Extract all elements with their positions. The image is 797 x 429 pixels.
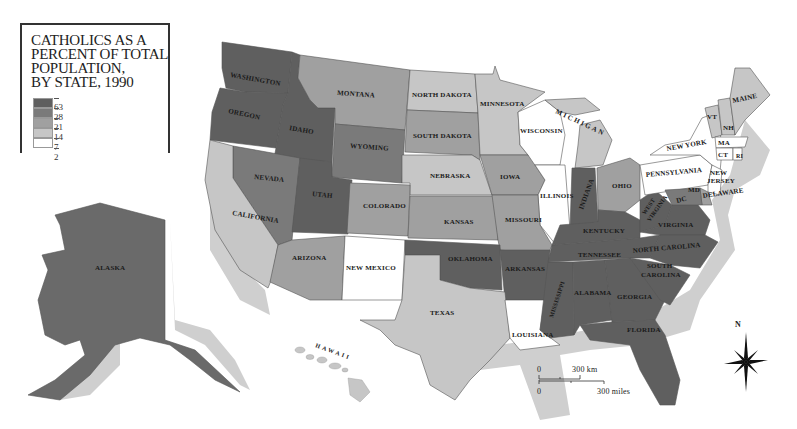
legend-swatch [33,138,53,148]
label-north-dakota: NORTH DAKOTA [412,91,472,99]
state-washington[interactable] [222,42,292,93]
label-minnesota: MINNESOTA [480,100,524,108]
legend-title-line: POPULATION, [31,61,168,75]
legend: CATHOLICS AS A PERCENT OF TOTAL POPULATI… [20,23,170,153]
scale-km-label: 300 km [572,365,598,374]
scale-km-zero: 0 [537,365,541,374]
legend-title-line: PERCENT OF TOTAL [31,47,168,61]
label-wisconsin: WISCONSIN [520,127,563,135]
legend-swatch [33,118,53,128]
label-texas: TEXAS [430,309,454,317]
label-colorado: COLORADO [363,202,406,210]
label-kansas: KANSAS [444,218,474,226]
state-hawaii[interactable] [295,347,370,402]
state-wyoming[interactable] [332,124,405,183]
label-iowa: IOWA [500,173,520,181]
label-kentucky: KENTUCKY [583,227,625,235]
label-new-jersey-2: JERSEY [707,177,735,185]
label-virginia: VIRGINIA [658,221,693,229]
legend-title-line: CATHOLICS AS A [31,33,168,47]
label-ohio: OHIO [612,182,632,190]
legend-swatch [33,98,53,108]
label-illinois: ILLINOIS [540,192,574,200]
scale-mi-label: 300 miles [597,387,630,396]
label-nebraska: NEBRASKA [430,172,471,180]
label-alabama: ALABAMA [574,289,612,297]
legend-scale: 63 28 21 14 7 2 [33,98,53,148]
label-south-carolina-1: SOUTH [647,262,673,270]
state-arizona[interactable] [270,236,345,300]
label-florida: FLORIDA [627,326,661,334]
label-georgia: GEORGIA [617,293,652,301]
scale-mi-zero: 0 [537,387,541,396]
label-vermont: VT [707,113,717,121]
label-south-carolina-2: CAROLINA [641,271,681,279]
label-rhode-island: RI [736,153,744,159]
legend-swatch [33,128,53,138]
legend-title-line: BY STATE, 1990 [31,75,168,89]
legend-swatch [33,108,53,118]
legend-title: CATHOLICS AS A PERCENT OF TOTAL POPULATI… [31,33,168,89]
label-arkansas: ARKANSAS [505,265,545,273]
label-alaska: ALASKA [95,264,125,272]
compass-rose-icon [724,332,768,392]
label-new-hampshire: NH [723,124,734,132]
compass-north-label: N [735,320,741,329]
state-alaska[interactable] [28,203,240,400]
label-new-jersey-1: NEW [710,169,727,177]
label-maryland: MD [688,186,700,194]
label-new-mexico: NEW MEXICO [346,264,396,272]
label-arizona: ARIZONA [292,254,326,262]
label-missouri: MISSOURI [505,216,542,224]
label-south-dakota: SOUTH DAKOTA [413,132,472,140]
label-oklahoma: OKLAHOMA [448,255,493,263]
state-arkansas[interactable] [500,250,550,300]
legend-tick: 2 [54,144,61,162]
label-connecticut: CT [718,151,728,159]
label-massachusetts: MA [718,139,730,147]
label-tennessee: TENNESSEE [578,251,621,259]
label-louisiana: LOUISIANA [512,331,553,339]
